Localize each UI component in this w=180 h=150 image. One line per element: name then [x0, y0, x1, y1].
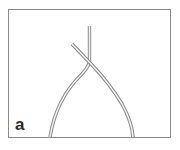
diagram-canvas [0, 0, 180, 150]
panel-label: a [15, 116, 24, 133]
figure-panel-a: a [0, 0, 180, 150]
